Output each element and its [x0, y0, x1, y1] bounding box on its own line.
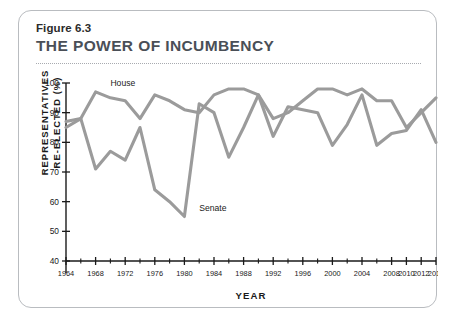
x-tick-label: 1968 [87, 269, 103, 278]
series-annotations: HouseSenate [110, 78, 226, 213]
x-axis-title: YEAR [235, 290, 266, 301]
x-tick-label: 1992 [265, 269, 281, 278]
x-tick-label: 1964 [58, 269, 74, 278]
x-tick-label: 1984 [206, 269, 222, 278]
y-tick-label: 40 [50, 256, 60, 266]
y-axis-title: REPRESENTATIVES RE-ELECTED (%) [39, 58, 62, 188]
x-tick-label: 1996 [295, 269, 311, 278]
y-axis-title-line2: RE-ELECTED (%) [50, 77, 61, 169]
x-axis: 1964196819721976198019841988199219962000… [58, 257, 438, 278]
y-tick-label: 50 [50, 226, 60, 236]
y-tick-label: 60 [50, 197, 60, 207]
x-tick-label: 1988 [235, 269, 251, 278]
x-tick-label: 1980 [176, 269, 192, 278]
x-tick-label: 1972 [117, 269, 133, 278]
series-label-house: House [110, 78, 135, 88]
figure-card: Figure 6.3 THE POWER OF INCUMBENCY REPRE… [18, 10, 437, 308]
data-series-group [66, 89, 436, 217]
series-line-senate [66, 95, 436, 217]
x-tick-label: 2014 [428, 269, 438, 278]
x-tick-label: 1976 [147, 269, 163, 278]
y-axis-title-line1: REPRESENTATIVES [39, 70, 50, 176]
incumbency-line-chart: 405060708090100 196419681972197619801984… [19, 11, 438, 309]
x-tick-label: 2000 [324, 269, 340, 278]
x-tick-label: 2004 [354, 269, 370, 278]
chart-plot-area: REPRESENTATIVES RE-ELECTED (%) 405060708… [19, 11, 438, 309]
series-label-senate: Senate [199, 203, 226, 213]
